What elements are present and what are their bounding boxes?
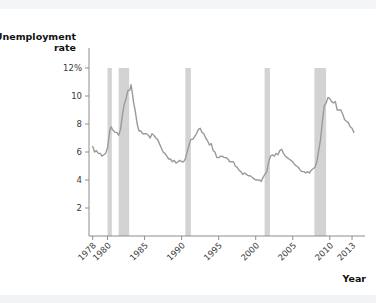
tick-labels-group: 12%1086421978198019851990199520002005201… <box>63 63 357 263</box>
x-tick-label-1990: 1990 <box>165 240 187 262</box>
x-tick-label-2013: 2013 <box>335 240 357 262</box>
x-tick-label-2005: 2005 <box>276 240 298 262</box>
x-tick-label-1985: 1985 <box>128 240 150 262</box>
recession-1990-1991 <box>185 68 191 236</box>
figure-container: 12%1086421978198019851990199520002005201… <box>0 0 376 303</box>
y-tick-label-2: 2 <box>77 203 82 213</box>
recession-2007-2009 <box>314 68 326 236</box>
y-tick-label-8: 8 <box>77 119 82 129</box>
y-tick-label-4: 4 <box>77 175 82 185</box>
x-tick-label-2000: 2000 <box>239 240 261 262</box>
y-tick-label-10: 10 <box>71 91 82 101</box>
y-tick-label-6: 6 <box>77 147 82 157</box>
unemployment-rate-chart: 12%1086421978198019851990199520002005201… <box>0 0 376 303</box>
recession-1980 <box>108 68 112 236</box>
x-tick-label-2010: 2010 <box>313 240 335 262</box>
recession-2001 <box>265 68 270 236</box>
recession-bands-group <box>108 68 327 236</box>
x-tick-label-1995: 1995 <box>202 240 224 262</box>
y-tick-label-12: 12% <box>63 63 82 73</box>
